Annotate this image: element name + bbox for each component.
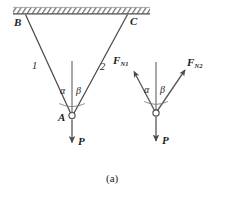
label-member-1: 1 [32, 61, 37, 72]
figure-drawing [0, 0, 246, 205]
label-angle-alpha-left: α [60, 86, 65, 96]
label-angle-beta-left: β [76, 86, 81, 96]
label-force-fn2: FN2 [187, 57, 202, 68]
label-force-fn1-sub: N1 [121, 60, 129, 67]
hatched-ceiling [13, 7, 150, 13]
label-node-c: C [130, 16, 137, 27]
label-member-2: 2 [100, 62, 105, 73]
label-angle-alpha-right: α [144, 85, 149, 95]
joint-fbd-pin [153, 110, 159, 116]
figure-container: B C A 1 2 α β P FN1 FN2 α β P (a) [0, 0, 246, 205]
label-force-fn1: FN1 [113, 55, 128, 66]
joint-a-pin [69, 113, 75, 119]
label-load-p-left: P [78, 136, 85, 147]
figure-caption: (a) [106, 173, 118, 184]
label-node-b: B [14, 17, 21, 28]
label-angle-beta-right: β [160, 85, 165, 95]
label-force-fn2-sub: N2 [195, 62, 203, 69]
label-force-fn2-base: F [187, 56, 194, 68]
label-load-p-right: P [162, 135, 169, 146]
label-node-a: A [58, 112, 65, 123]
label-force-fn1-base: F [113, 54, 120, 66]
